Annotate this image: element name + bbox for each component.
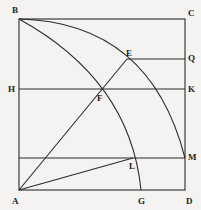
label-f: F (97, 94, 103, 103)
label-d: D (186, 197, 193, 206)
label-m: M (188, 153, 197, 162)
line-ae (19, 59, 127, 190)
label-k: K (188, 85, 195, 94)
curve-bg (19, 19, 141, 190)
geometry-diagram (0, 0, 201, 210)
label-g: G (138, 197, 145, 206)
label-a: A (12, 197, 19, 206)
label-c: C (188, 9, 195, 18)
label-e: E (126, 49, 132, 58)
label-l: L (129, 162, 135, 171)
square-abcd (19, 19, 185, 190)
label-q: Q (188, 54, 195, 63)
line-al (19, 158, 133, 190)
label-b: B (12, 6, 18, 15)
label-h: H (8, 85, 15, 94)
